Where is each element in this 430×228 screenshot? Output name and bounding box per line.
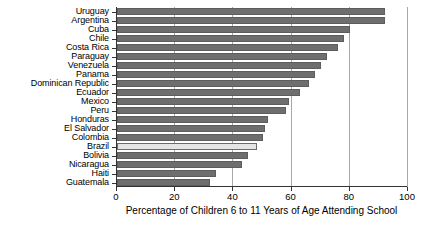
bar	[117, 35, 344, 42]
bar	[117, 44, 338, 51]
bar	[117, 80, 309, 87]
bar-chart: UruguayArgentinaCubaChileCosta RicaParag…	[0, 0, 430, 228]
x-tick-label: 60	[285, 191, 296, 202]
bar-row	[116, 124, 407, 133]
y-axis-label: Guatemala	[0, 178, 112, 187]
y-axis-spine	[116, 7, 117, 187]
x-tick-label: 80	[344, 191, 355, 202]
bar	[117, 179, 210, 186]
bar	[117, 116, 268, 123]
bar	[117, 17, 385, 24]
bar-row	[116, 16, 407, 25]
y-tick-mark	[112, 120, 116, 121]
bar-row	[116, 52, 407, 61]
y-tick-mark	[112, 57, 116, 58]
y-tick-mark	[112, 165, 116, 166]
bar	[117, 89, 300, 96]
bar-row	[116, 115, 407, 124]
y-tick-mark	[112, 147, 116, 148]
bar-row	[116, 7, 407, 16]
y-tick-mark	[112, 30, 116, 31]
gridline	[407, 7, 408, 187]
bar	[117, 71, 315, 78]
bar-row	[116, 25, 407, 34]
bar-series	[116, 7, 407, 187]
y-tick-mark	[112, 102, 116, 103]
y-tick-mark	[112, 21, 116, 22]
y-tick-mark	[112, 174, 116, 175]
bar	[117, 98, 289, 105]
bar	[117, 8, 385, 15]
bar-row	[116, 169, 407, 178]
y-tick-mark	[112, 75, 116, 76]
bar	[117, 26, 350, 33]
bar	[117, 62, 321, 69]
x-tick-label: 20	[169, 191, 180, 202]
bar	[117, 143, 257, 150]
bar-row	[116, 88, 407, 97]
y-tick-mark	[112, 12, 116, 13]
bar-row	[116, 151, 407, 160]
bar-row	[116, 142, 407, 151]
bar-row	[116, 61, 407, 70]
y-tick-mark	[112, 138, 116, 139]
bar-row	[116, 106, 407, 115]
bar-row	[116, 70, 407, 79]
x-tick-label: 100	[399, 191, 415, 202]
x-tick-label: 0	[113, 191, 118, 202]
bar	[117, 161, 242, 168]
x-axis-spine	[116, 186, 407, 187]
bar-row	[116, 34, 407, 43]
y-tick-mark	[112, 93, 116, 94]
y-tick-mark	[112, 84, 116, 85]
y-tick-mark	[112, 39, 116, 40]
bar	[117, 152, 248, 159]
bar	[117, 134, 263, 141]
y-tick-mark	[112, 183, 116, 184]
y-tick-mark	[112, 111, 116, 112]
bar	[117, 53, 327, 60]
y-tick-mark	[112, 48, 116, 49]
y-tick-mark	[112, 66, 116, 67]
bar-row	[116, 79, 407, 88]
bar	[117, 107, 286, 114]
y-axis-category-labels: UruguayArgentinaCubaChileCosta RicaParag…	[0, 7, 112, 187]
plot-area	[116, 7, 407, 187]
bar-row	[116, 160, 407, 169]
bar	[117, 170, 216, 177]
bar	[117, 125, 265, 132]
y-tick-mark	[112, 129, 116, 130]
bar-row	[116, 43, 407, 52]
bar-row	[116, 97, 407, 106]
x-tick-label: 40	[227, 191, 238, 202]
y-tick-mark	[112, 156, 116, 157]
bar-row	[116, 133, 407, 142]
x-axis-title: Percentage of Children 6 to 11 Years of …	[116, 205, 407, 216]
